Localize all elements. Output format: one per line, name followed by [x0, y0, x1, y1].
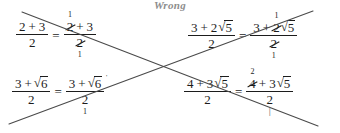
replacement-value: 1 [83, 108, 87, 116]
eq3-right-numerator: 3 + √ 6' [66, 76, 104, 91]
token: 2 [27, 93, 36, 106]
equals-sign: = [52, 28, 59, 42]
eq3-left-denominator: 2 [25, 92, 38, 106]
cancelled-token: 1 2 [66, 20, 75, 33]
cancelled-token: 2 1 [76, 36, 85, 49]
token: 2 [28, 36, 37, 49]
token: 2 [267, 92, 274, 107]
eq4-left-fraction: 4 + 3 √ 5 2 [184, 76, 231, 106]
replacement-value: 1 [272, 52, 276, 60]
eq1-right-denominator: 2 1 [74, 35, 87, 49]
radicand: 6 [40, 76, 49, 90]
radical-expression: √ 6' [88, 76, 103, 90]
denominator-token: 2 1 [81, 93, 90, 106]
plus-operator: + [199, 21, 210, 34]
equation-row-2: 3 + 2 √ 5 2 = 3 + 1 2 [188, 20, 297, 50]
worksheet-canvas: Wrong 2 + 3 2 = 1 2 + 3 [0, 0, 340, 133]
radicand: 5 [287, 20, 296, 34]
stray-mark: ' [106, 74, 107, 81]
equation-row-4: 4 + 3 √ 5 2 = 2 4 + 3 [184, 76, 293, 106]
replacement-value: 1 [78, 51, 82, 59]
page-title: Wrong [0, 0, 340, 11]
token: 2 [82, 92, 89, 107]
replacement-value: | [269, 108, 271, 116]
equals-sign: = [54, 84, 61, 98]
radicand: 5 [224, 20, 233, 34]
radicand: 6' [94, 76, 103, 90]
eq1-right-fraction: 1 2 + 3 2 1 [64, 20, 96, 49]
token: 2 [18, 20, 27, 33]
plus-operator: + [76, 77, 87, 90]
eq1-left-numerator: 2 + 3 [16, 20, 48, 34]
radical-expression: √ 6 [34, 76, 49, 90]
plus-operator: + [27, 20, 38, 33]
plus-operator: + [195, 77, 206, 90]
denominator-token: 2 | [266, 93, 275, 106]
eq4-right-denominator: 2 | [264, 92, 277, 106]
radicand: 5 [283, 76, 292, 90]
eq3-left-fraction: 3 + √ 6 2 [12, 76, 50, 106]
token: 3 [252, 21, 261, 34]
eq1-left-denominator: 2 [26, 35, 39, 49]
token: 3 [206, 77, 215, 90]
eq2-left-fraction: 3 + 2 √ 5 2 [188, 20, 235, 50]
eq2-left-denominator: 2 [205, 36, 218, 50]
radical-expression: √ 5 [281, 20, 296, 34]
eq2-right-fraction: 3 + 1 2 √ 5 2 1 [250, 20, 297, 50]
token: 3 [268, 77, 277, 90]
replacement-value: 2 [251, 68, 255, 76]
eq4-right-numerator: 2 4 + 3 √ 5 [246, 76, 293, 91]
eq4-left-numerator: 4 + 3 √ 5 [184, 76, 231, 91]
token: 2 [207, 37, 216, 50]
plus-operator: + [257, 77, 268, 90]
eq4-left-denominator: 2 [201, 92, 214, 106]
radicand: 5 [220, 76, 229, 90]
radical-expression: √ 5 [218, 20, 233, 34]
eq3-left-numerator: 3 + √ 6 [12, 76, 50, 91]
token: 3 [86, 20, 95, 33]
replacement-value: 1 [274, 12, 278, 20]
eq3-right-denominator: 2 1 [79, 92, 92, 106]
plus-operator: + [261, 21, 272, 34]
token: 3 [190, 21, 199, 34]
equals-sign: = [239, 28, 246, 42]
radical-expression: √ 5 [277, 76, 292, 90]
radical-expression: √ 5 [214, 76, 229, 90]
eq2-right-denominator: 2 1 [268, 36, 281, 50]
eq1-right-numerator: 1 2 + 3 [64, 20, 96, 34]
cancelled-token: 1 2 [272, 21, 281, 34]
replacement-value: 1 [68, 11, 72, 19]
equation-row-3: 3 + √ 6 2 = 3 + √ 6' [12, 76, 104, 106]
token: 3 [68, 77, 77, 90]
token: 2 [210, 21, 219, 34]
token: 3 [14, 77, 23, 90]
token: 4 [186, 77, 195, 90]
plus-operator: + [74, 20, 85, 33]
plus-operator: + [23, 77, 34, 90]
equals-sign: = [235, 84, 242, 98]
cancelled-token: 2 4 [248, 77, 257, 90]
equation-row-1: 2 + 3 2 = 1 2 + 3 2 [16, 20, 96, 49]
eq4-right-fraction: 2 4 + 3 √ 5 2 | [246, 76, 293, 106]
eq1-left-fraction: 2 + 3 2 [16, 20, 48, 49]
cancelled-token: 2 1 [270, 37, 279, 50]
eq2-left-numerator: 3 + 2 √ 5 [188, 20, 235, 35]
eq2-right-numerator: 3 + 1 2 √ 5 [250, 20, 297, 35]
token: 2 [203, 93, 212, 106]
token: 3 [38, 20, 47, 33]
eq3-right-fraction: 3 + √ 6' 2 1 [66, 76, 104, 106]
